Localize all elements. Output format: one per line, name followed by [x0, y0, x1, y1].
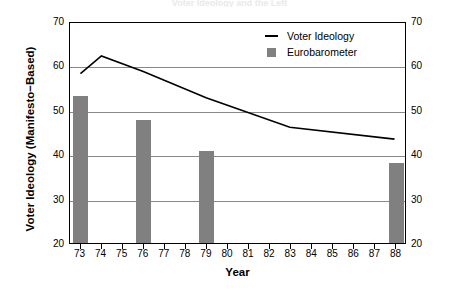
- x-axis-tick-label: 88: [385, 249, 405, 259]
- x-axis-tick-label: 80: [217, 249, 237, 259]
- x-axis-tick-label: 75: [112, 249, 132, 259]
- x-axis-tick-mark: [164, 244, 165, 249]
- x-axis-tick-mark: [185, 244, 186, 249]
- x-axis-tick-label: 81: [238, 249, 258, 259]
- y-axis-tick-label: 70: [38, 17, 64, 27]
- x-axis-tick-mark: [206, 244, 207, 249]
- x-axis-tick-label: 85: [322, 249, 342, 259]
- chart-legend: Voter Ideology Eurobarometer: [262, 28, 357, 60]
- y-axis-tick-label: 70: [411, 17, 437, 27]
- x-axis-tick-mark: [332, 244, 333, 249]
- x-axis-tick-label: 86: [343, 249, 363, 259]
- x-axis-tick-mark: [143, 244, 144, 249]
- legend-label: Eurobarometer: [287, 44, 357, 60]
- x-axis-tick-label: 77: [154, 249, 174, 259]
- line-marker-icon: [262, 35, 281, 37]
- y-axis-tick-label: 60: [411, 61, 437, 71]
- x-axis-tick-mark: [374, 244, 375, 249]
- y-axis-label: Voter Ideology (Manifesto−Based): [24, 14, 36, 264]
- x-axis-tick-label: 82: [259, 249, 279, 259]
- y-axis-tick-label: 30: [411, 195, 437, 205]
- x-axis-tick-label: 79: [196, 249, 216, 259]
- x-axis-tick-label: 83: [280, 249, 300, 259]
- y-axis-tick-label: 30: [38, 195, 64, 205]
- y-axis-tick-label: 40: [38, 150, 64, 160]
- x-axis-tick-label: 74: [91, 249, 111, 259]
- x-axis-tick-mark: [80, 244, 81, 249]
- y-axis-tick-label: 50: [38, 106, 64, 116]
- legend-item-voter-ideology: Voter Ideology: [262, 28, 357, 44]
- chart-title: Voter Ideology and the Left: [0, 0, 459, 7]
- x-axis-tick-mark: [101, 244, 102, 249]
- chart-container: Voter Ideology and the Left Voter Ideolo…: [0, 0, 459, 303]
- x-axis-tick-mark: [248, 244, 249, 249]
- y-axis-tick-label: 60: [38, 61, 64, 71]
- x-axis-tick-mark: [122, 244, 123, 249]
- x-axis-tick-label: 73: [70, 249, 90, 259]
- x-axis-label: Year: [69, 266, 406, 278]
- x-axis-tick-label: 84: [301, 249, 321, 259]
- y-axis-tick-label: 40: [411, 150, 437, 160]
- x-axis-tick-mark: [290, 244, 291, 249]
- x-axis-tick-mark: [227, 244, 228, 249]
- x-axis-tick-mark: [269, 244, 270, 249]
- x-axis-tick-label: 78: [175, 249, 195, 259]
- x-axis-tick-mark: [395, 244, 396, 249]
- x-axis-tick-label: 76: [133, 249, 153, 259]
- y-axis-tick-label: 20: [411, 239, 437, 249]
- legend-item-eurobarometer: Eurobarometer: [262, 44, 357, 60]
- legend-label: Voter Ideology: [287, 28, 354, 44]
- x-axis-tick-label: 87: [364, 249, 384, 259]
- x-axis-tick-mark: [311, 244, 312, 249]
- x-axis-tick-mark: [353, 244, 354, 249]
- bar-swatch-icon: [262, 48, 281, 57]
- y-axis-tick-label: 20: [38, 239, 64, 249]
- y-axis-tick-label: 50: [411, 106, 437, 116]
